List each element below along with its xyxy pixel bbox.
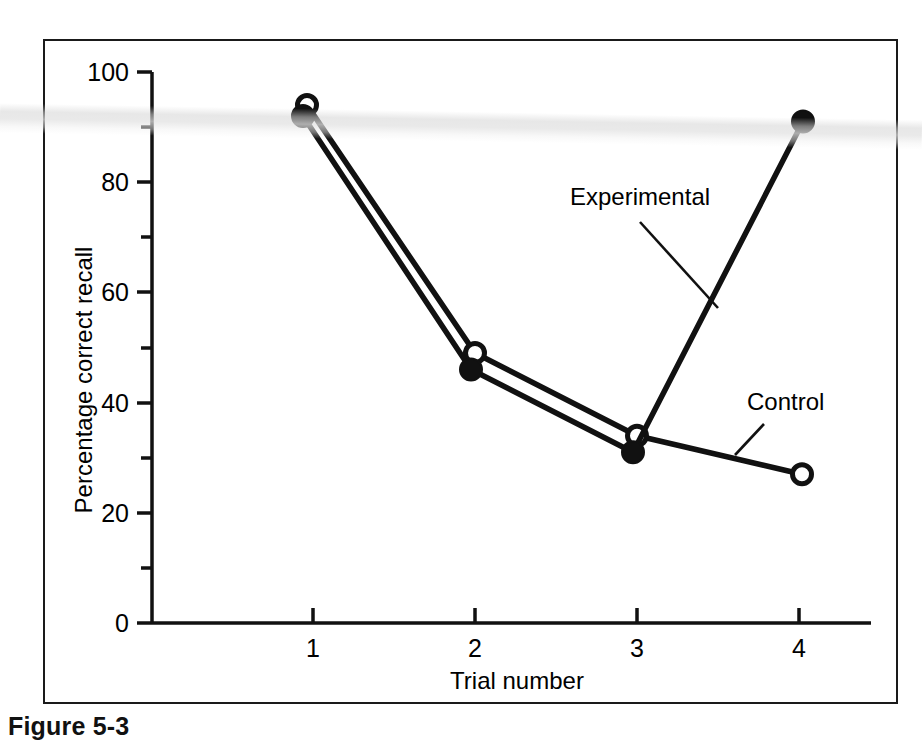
x-axis-title: Trial number xyxy=(450,667,584,694)
annotation-control-leader xyxy=(735,424,764,455)
y-tick-label-60: 60 xyxy=(101,278,129,306)
figure-caption: Figure 5-3 xyxy=(8,712,129,741)
x-axis: 1 2 3 4 xyxy=(152,608,871,662)
experimental-point-2 xyxy=(460,359,482,381)
series-experimental xyxy=(292,105,814,463)
annotation-control-label: Control xyxy=(747,388,824,415)
x-tick-label-1: 1 xyxy=(306,634,320,662)
y-tick-label-0: 0 xyxy=(115,609,129,637)
control-line xyxy=(307,105,802,474)
x-tick-label-4: 4 xyxy=(792,634,806,662)
y-tick-label-80: 80 xyxy=(101,168,129,196)
figure-container: 100 80 60 40 20 0 1 2 3 4 Trial number P… xyxy=(0,0,922,748)
control-point-4 xyxy=(793,465,812,484)
annotation-control: Control xyxy=(735,388,824,455)
experimental-line xyxy=(303,116,803,452)
y-axis-title: Percentage correct recall xyxy=(70,247,97,514)
y-tick-label-20: 20 xyxy=(101,499,129,527)
experimental-point-3 xyxy=(622,441,644,463)
series-control xyxy=(298,96,812,484)
experimental-point-1 xyxy=(292,105,314,127)
y-tick-label-40: 40 xyxy=(101,389,129,417)
annotation-experimental-leader xyxy=(640,222,718,308)
annotation-experimental-label: Experimental xyxy=(570,183,710,210)
annotation-experimental: Experimental xyxy=(570,183,718,308)
chart-plot: 100 80 60 40 20 0 1 2 3 4 Trial number P… xyxy=(0,0,922,748)
x-tick-label-2: 2 xyxy=(468,634,482,662)
y-tick-label-100: 100 xyxy=(87,58,129,86)
experimental-point-4 xyxy=(792,111,814,133)
control-markers xyxy=(298,96,812,484)
x-tick-label-3: 3 xyxy=(630,634,644,662)
